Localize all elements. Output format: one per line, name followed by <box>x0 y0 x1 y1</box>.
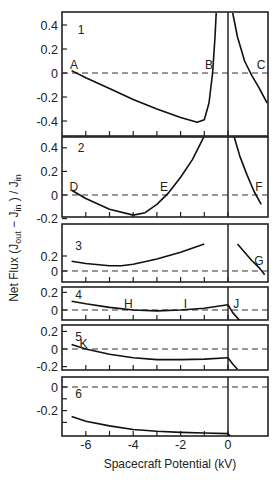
panel-frame <box>62 224 268 282</box>
panel-2: 0.40.20-0.22DEF <box>36 136 268 226</box>
y-tick-label: -0.2 <box>36 212 58 226</box>
y-tick-label: -0.2 <box>36 360 58 374</box>
curve-annotation: E <box>160 180 168 194</box>
curve-annotation: 1 <box>78 23 85 37</box>
panel-frame <box>62 325 268 370</box>
curve-annotation: C <box>257 58 266 72</box>
curve-annotation: G <box>254 254 263 268</box>
x-tick-label: -2 <box>175 438 186 452</box>
panel-1: 0.40.20-0.2-0.41ABC <box>36 12 268 136</box>
x-axis-label: Spacecraft Potential (kV) <box>104 457 237 471</box>
y-tick-label: 0.2 <box>41 250 58 264</box>
y-tick-label: 0.2 <box>41 43 58 57</box>
y-tick-label: 0.2 <box>41 286 58 300</box>
y-tick-label: 0 <box>51 381 58 395</box>
y-tick-label: -0.2 <box>36 404 58 418</box>
panel-frame <box>62 377 268 436</box>
y-tick-label: 0 <box>51 67 58 81</box>
y-tick-label: 0 <box>51 189 58 203</box>
x-tick-label: -6 <box>80 438 91 452</box>
curve-annotation: H <box>124 297 133 311</box>
curve-annotation: 4 <box>75 288 82 302</box>
y-tick-label: 0.4 <box>41 19 58 33</box>
curve-annotation: 6 <box>75 387 82 401</box>
x-tick-label: -4 <box>128 438 139 452</box>
flux-curve <box>72 13 217 122</box>
y-tick-label: 0.2 <box>41 165 58 179</box>
panel-6: 0-0.26 <box>36 377 268 437</box>
curve-annotation: B <box>205 58 213 72</box>
panels-group: 0.40.20-0.2-0.41ABC0.40.20-0.22DEF0.203G… <box>36 12 268 437</box>
curve-annotation: 3 <box>75 239 82 253</box>
y-tick-label: 0 <box>51 304 58 318</box>
y-tick-label: 0.4 <box>41 141 58 155</box>
flux-curve <box>72 301 228 311</box>
net-flux-figure: 0.40.20-0.2-0.41ABC0.40.20-0.22DEF0.203G… <box>0 0 280 483</box>
panel-5: 0.20-0.25K <box>36 325 268 374</box>
curve-annotation: I <box>184 297 187 311</box>
flux-curve <box>72 345 228 360</box>
y-tick-label: -0.2 <box>36 91 58 105</box>
curve-annotation: 2 <box>78 141 85 155</box>
flux-curve <box>72 136 205 215</box>
curve-annotation: F <box>255 180 262 194</box>
x-axis: -6-4-20 <box>80 438 231 452</box>
y-tick-label: -0.4 <box>36 115 58 129</box>
y-axis-label: Net Flux (Jout​ − Jin​ ) / Jin​ <box>7 174 23 302</box>
x-tick-label: 0 <box>225 438 232 452</box>
y-tick-label: 0.2 <box>41 325 58 339</box>
curve-annotation: A <box>70 58 78 72</box>
panel-frame <box>62 12 268 136</box>
flux-curve <box>228 358 238 369</box>
flux-curve <box>234 136 261 204</box>
panel-3: 0.203G <box>41 224 268 282</box>
curve-annotation: J <box>233 297 239 311</box>
curve-annotation: K <box>79 337 87 351</box>
y-tick-label: 0 <box>51 265 58 279</box>
flux-curve <box>72 244 205 266</box>
panel-4: 0.204HIJ <box>41 286 268 321</box>
curve-annotation: D <box>70 180 79 194</box>
y-tick-label: 0 <box>51 343 58 357</box>
